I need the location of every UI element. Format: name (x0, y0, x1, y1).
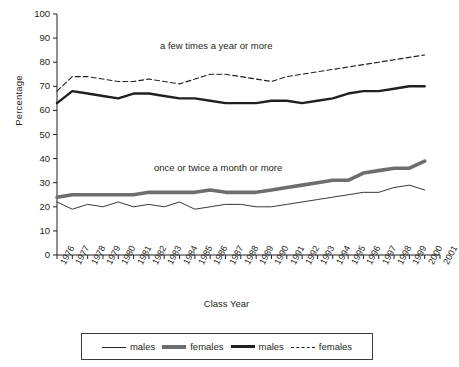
y-axis-tick-label: 20 (24, 202, 50, 212)
legend-item: males (231, 341, 284, 352)
y-axis-title: Percentage (13, 61, 24, 141)
series-line-0 (57, 185, 425, 209)
y-axis-tick-label: 100 (24, 9, 50, 19)
legend-swatch-icon (102, 343, 126, 350)
legend-item: females (162, 341, 223, 352)
legend-swatch-icon (291, 343, 315, 350)
y-axis-tick-label: 50 (24, 130, 50, 140)
y-axis-tick-label: 10 (24, 226, 50, 236)
y-axis-tick-label: 70 (24, 81, 50, 91)
series-line-3 (57, 55, 425, 91)
y-axis-tick-label: 90 (24, 33, 50, 43)
x-axis-title: Class Year (0, 298, 453, 309)
series-line-2 (57, 86, 425, 103)
y-axis-tick-label: 80 (24, 57, 50, 67)
legend-label: females (319, 341, 352, 352)
legend-label: females (190, 341, 223, 352)
chart-legend: malesfemalesmalesfemales (81, 333, 373, 360)
y-axis-tick-label: 30 (24, 178, 50, 188)
legend-label: males (259, 341, 284, 352)
legend-item: females (291, 341, 352, 352)
y-axis-tick-label: 0 (24, 250, 50, 260)
legend-swatch-icon (162, 343, 186, 350)
y-axis-tick-label: 40 (24, 154, 50, 164)
legend-label: males (130, 341, 155, 352)
annotation-a-few-times-a-year: a few times a year or more (160, 40, 272, 51)
legend-item: males (102, 341, 155, 352)
annotation-once-or-twice-a-month: once or twice a month or more (154, 162, 282, 173)
legend-swatch-icon (231, 343, 255, 350)
y-axis-tick-label: 60 (24, 105, 50, 115)
